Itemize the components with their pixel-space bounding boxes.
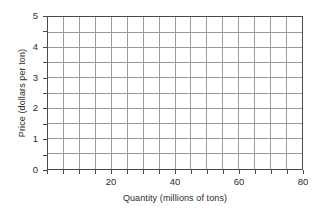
x-axis-tick: [175, 170, 176, 174]
x-axis-tick: [255, 170, 256, 174]
x-axis-tick: [191, 170, 192, 174]
y-axis-tick: [43, 62, 47, 63]
y-axis-tick: [43, 170, 47, 171]
y-axis-tick: [43, 47, 47, 48]
y-axis-tick: [43, 155, 47, 156]
y-axis-tick: [43, 139, 47, 140]
y-axis-tick: [43, 93, 47, 94]
grid-lines: [48, 17, 302, 169]
x-axis-tick-label: 60: [224, 176, 254, 187]
x-axis-tick: [47, 170, 48, 174]
x-axis-title: Quantity (millions of tons): [47, 193, 303, 203]
x-axis-tick: [63, 170, 64, 174]
x-axis-tick: [159, 170, 160, 174]
x-axis-tick: [143, 170, 144, 174]
y-axis-tick: [43, 31, 47, 32]
y-axis-tick: [43, 78, 47, 79]
x-axis-tick: [207, 170, 208, 174]
x-axis-tick: [223, 170, 224, 174]
x-axis-tick-label: 20: [96, 176, 126, 187]
x-axis-tick-label: 80: [288, 176, 318, 187]
x-axis-tick: [271, 170, 272, 174]
chart-figure: 20406080 012345 Quantity (millions of to…: [0, 0, 320, 214]
y-axis-tick: [43, 108, 47, 109]
y-axis-tick: [43, 124, 47, 125]
plot-area: [47, 16, 303, 170]
x-axis-tick: [303, 170, 304, 174]
y-axis-title: Price (dollars per ton): [14, 16, 30, 170]
x-axis-tick: [287, 170, 288, 174]
y-axis-tick: [43, 16, 47, 17]
x-axis-tick: [111, 170, 112, 174]
x-axis-tick: [127, 170, 128, 174]
x-axis-tick: [239, 170, 240, 174]
x-axis-tick: [79, 170, 80, 174]
x-axis-tick-label: 40: [160, 176, 190, 187]
x-axis-tick: [95, 170, 96, 174]
